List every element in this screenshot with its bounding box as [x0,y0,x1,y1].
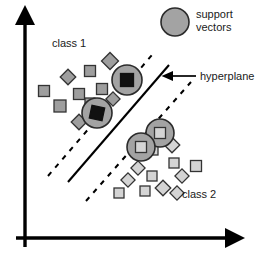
data-point-square [140,186,150,196]
support-vector-marker [112,65,142,95]
data-point-square [89,105,104,120]
data-point-square [74,89,85,100]
support-vector-marker [82,98,112,128]
class2-label: class 2 [182,188,216,200]
data-point-square [147,171,157,181]
data-point-square [121,74,134,87]
figure-background [0,0,266,262]
data-point-square [155,128,166,139]
data-point-square [191,161,202,172]
data-point-square [97,84,108,95]
class1-label: class 1 [52,37,86,49]
legend-support-vector-icon [161,8,189,36]
svm-figure-canvas: supportvectors class 1class 2hyperplane [0,0,266,262]
svm-diagram: supportvectors class 1class 2hyperplane [0,0,266,262]
data-point-square [39,86,50,97]
legend-label-line2: vectors [196,21,232,33]
data-point-square [85,66,96,77]
data-point-square [136,142,147,153]
data-point-square [169,158,179,168]
hyperplane-label: hyperplane [200,70,254,82]
data-point-square [54,100,66,112]
legend-label-line1: support [196,8,233,20]
support-vector-marker [127,133,155,161]
legend: supportvectors [161,8,233,36]
data-point-square [114,188,124,198]
